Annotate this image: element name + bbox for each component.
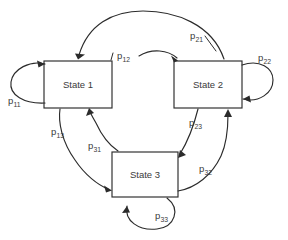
transition-path-p23	[180, 109, 198, 154]
state-label-state1: State 1	[63, 79, 93, 90]
arrow-head-p22	[243, 96, 251, 103]
transition-edge-p32[interactable]	[178, 109, 232, 191]
diagram-canvas: State 1 State 2 State 3	[0, 0, 288, 240]
leader-line-p21	[205, 36, 216, 51]
arrow-head-p13	[104, 186, 112, 193]
transition-path-p22	[242, 63, 273, 100]
arrow-head-p32	[224, 109, 232, 117]
leader-line-p12	[111, 53, 113, 60]
transition-label-p21: p21	[190, 31, 203, 44]
transition-label-p22: p22	[258, 53, 271, 66]
transition-edge-p23[interactable]	[178, 109, 198, 158]
transition-label-p32: p32	[199, 164, 212, 177]
transition-edge-p13[interactable]	[60, 109, 112, 193]
arrow-head-p21	[75, 54, 85, 60]
transition-label-p31: p31	[88, 141, 101, 154]
transition-label-p13: p13	[51, 127, 64, 140]
arrow-head-p33	[122, 206, 130, 213]
transition-label-p23: p23	[189, 118, 202, 131]
state-transition-diagram: State 1 State 2 State 3	[0, 0, 288, 240]
transition-path-p12	[139, 51, 177, 58]
transition-label-p11: p11	[8, 96, 21, 109]
state-node-state1[interactable]: State 1	[44, 61, 112, 108]
transition-path-p32	[178, 114, 228, 191]
arrow-head-p31	[86, 108, 94, 116]
state-node-state2[interactable]: State 2	[174, 61, 242, 108]
transition-label-p12: p12	[117, 51, 130, 64]
transition-label-p33: p33	[155, 211, 168, 224]
state-label-state2: State 2	[193, 79, 223, 90]
transition-edge-p22[interactable]	[242, 63, 273, 102]
state-label-state3: State 3	[130, 169, 160, 180]
state-node-state3[interactable]: State 3	[112, 152, 178, 197]
